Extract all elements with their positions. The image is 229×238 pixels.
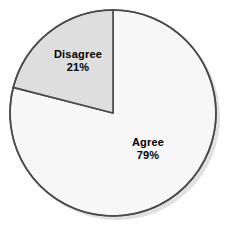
pie-label-disagree-value: 21% — [39, 61, 117, 74]
pie-chart-graphic — [0, 0, 229, 238]
pie-label-agree-value: 79% — [109, 149, 187, 162]
pie-chart-figure: Disagree 21% Agree 79% — [0, 0, 229, 238]
pie-label-agree-name: Agree — [109, 136, 187, 149]
pie-label-disagree: Disagree 21% — [39, 48, 117, 74]
pie-label-agree: Agree 79% — [109, 136, 187, 162]
pie-label-disagree-name: Disagree — [39, 48, 117, 61]
